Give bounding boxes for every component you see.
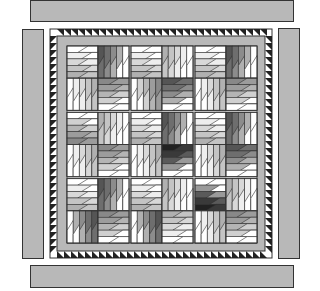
log-cabin-sub-block xyxy=(226,145,257,177)
log-cabin-sub-block xyxy=(162,211,193,243)
log-cabin-sub-block xyxy=(67,145,98,177)
log-cabin-sub-block xyxy=(195,78,226,110)
quilt-block-r1-c1 xyxy=(131,112,193,176)
log-cabin-sub-block xyxy=(67,112,98,144)
log-cabin-sub-block xyxy=(195,112,226,144)
quilt-block-r2-c0 xyxy=(67,179,129,243)
log-cabin-sub-block xyxy=(226,179,257,211)
log-cabin-sub-block xyxy=(98,211,129,243)
log-cabin-sub-block xyxy=(131,179,162,211)
log-cabin-sub-block xyxy=(98,179,129,211)
quilt-block-r1-c2 xyxy=(195,112,257,176)
log-cabin-sub-block xyxy=(162,112,193,144)
log-cabin-sub-block xyxy=(98,112,129,144)
log-cabin-sub-block xyxy=(98,46,129,78)
log-cabin-sub-block xyxy=(67,179,98,211)
log-cabin-sub-block xyxy=(67,211,98,243)
log-cabin-sub-block xyxy=(226,211,257,243)
quilt-block-r0-c0 xyxy=(67,46,129,110)
log-cabin-sub-block xyxy=(98,145,129,177)
log-cabin-sub-block xyxy=(226,46,257,78)
log-cabin-sub-block xyxy=(131,211,162,243)
log-cabin-sub-block xyxy=(226,78,257,110)
log-cabin-sub-block xyxy=(162,46,193,78)
log-cabin-sub-block xyxy=(98,78,129,110)
log-cabin-sub-block xyxy=(131,112,162,144)
log-cabin-sub-block xyxy=(131,78,162,110)
log-cabin-sub-block xyxy=(195,179,226,211)
quilt-center xyxy=(0,0,320,291)
log-cabin-sub-block xyxy=(131,46,162,78)
log-cabin-sub-block xyxy=(162,78,193,110)
quilt-block-r2-c2 xyxy=(195,179,257,243)
log-cabin-sub-block xyxy=(195,145,226,177)
quilt-block-r0-c1 xyxy=(131,46,193,110)
log-cabin-sub-block xyxy=(226,112,257,144)
log-cabin-sub-block xyxy=(67,78,98,110)
log-cabin-sub-block xyxy=(195,211,226,243)
log-cabin-sub-block xyxy=(162,145,193,177)
log-cabin-sub-block xyxy=(162,179,193,211)
log-cabin-sub-block xyxy=(131,145,162,177)
quilt-block-r0-c2 xyxy=(195,46,257,110)
quilt-block-r2-c1 xyxy=(131,179,193,243)
log-cabin-sub-block xyxy=(195,46,226,78)
log-cabin-sub-block xyxy=(67,46,98,78)
quilt-block-r1-c0 xyxy=(67,112,129,176)
